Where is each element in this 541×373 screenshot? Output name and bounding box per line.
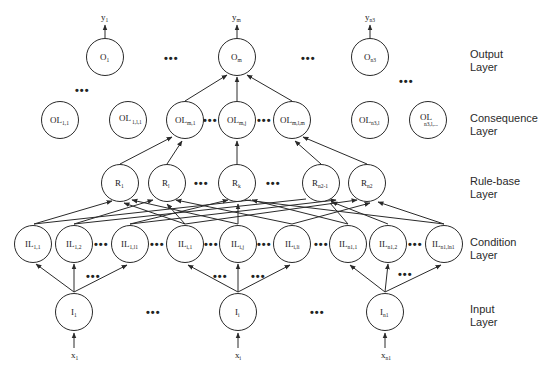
input-node-in1: In1: [367, 294, 404, 331]
layer-label-condition: Condition Layer: [470, 236, 516, 262]
layer-label-line: Input: [470, 303, 498, 316]
input-signals: x1 xi xn1: [71, 350, 391, 361]
condition-layer-nodes: IL1,1 IL1,2 IL1,l1 ILi,1 ILi,j ILi,li IL…: [15, 226, 463, 263]
ellipsis-icon: •••: [399, 75, 414, 87]
input-signal-xi: xi: [235, 350, 242, 361]
output-layer-nodes: O1 Om On3: [87, 39, 389, 76]
layer-label-line: Output: [470, 48, 503, 61]
output-signal-y1: y1: [101, 12, 109, 23]
ellipsis-icon: •••: [310, 306, 325, 318]
ellipsis-icon: •••: [94, 238, 109, 250]
layer-label-line: Layer: [470, 188, 520, 201]
layer-label-line: Rule-base: [470, 175, 520, 188]
output-signal-ym: ym: [232, 12, 242, 23]
ellipsis-icon: •••: [257, 238, 272, 250]
ellipsis-icon: •••: [251, 270, 266, 282]
layer-label-consequence: Consequence Layer: [470, 112, 538, 138]
ellipsis-icon: •••: [408, 238, 423, 250]
consequence-node-ol-n3-l: OLn3,l: [352, 102, 389, 139]
output-signal-yn3: yn3: [365, 12, 375, 23]
ellipsis-icon: •••: [194, 177, 209, 189]
consequence-node-ol-1-l-1: OL1,l,1: [110, 102, 147, 139]
consequence-node-ol-1-1: OL1,1: [42, 102, 79, 139]
layer-label-output: Output Layer: [470, 48, 503, 74]
ellipsis-icon: •••: [204, 238, 219, 250]
rule-node-rl: Rl: [149, 165, 186, 202]
rule-layer-nodes: R1 Rl Rk Rn2-1 Rn2: [102, 165, 386, 202]
layer-label-line: Layer: [470, 125, 538, 138]
rule-node-rk: Rk: [219, 165, 256, 202]
consequence-node-ol-m-j: OLm,j: [219, 102, 256, 139]
input-signal-xn1: xn1: [381, 350, 391, 361]
rule-node-rn2-minus-1: Rn2-1: [303, 165, 340, 202]
rule-node-r1: R1: [102, 165, 139, 202]
input-node-ii: Ii: [220, 294, 257, 331]
consequence-node-ol-m-1: OLm,1: [167, 102, 204, 139]
ellipsis-icon: •••: [213, 270, 228, 282]
ellipsis-icon: •••: [86, 270, 101, 282]
condition-node-il-n1-2: ILn1,2: [370, 226, 407, 263]
rule-node-rn2: Rn2: [349, 165, 386, 202]
ellipsis-icon: •••: [75, 84, 90, 96]
layer-label-line: Layer: [470, 316, 498, 329]
consequence-node-ol-n3-l-more: OLn3,l,...: [410, 102, 447, 139]
ellipsis-icon: •••: [257, 114, 272, 126]
condition-node-il-n1-ln1: ILn1,ln1: [426, 226, 463, 263]
fuzzy-neural-network-diagram: y1 ym yn3 O1 Om On3 OL1,1 OL1,l,1 OLm,1 …: [0, 0, 541, 373]
layer-label-input: Input Layer: [470, 303, 498, 329]
output-signals: y1 ym yn3: [101, 12, 375, 23]
condition-node-il-1-2: IL1,2: [56, 226, 93, 263]
ellipsis-icon: •••: [150, 238, 165, 250]
layer-label-line: Layer: [470, 249, 516, 262]
output-node-om: Om: [219, 39, 256, 76]
consequence-node-ol-m-l-m: OLm,l,m: [274, 102, 311, 139]
ellipsis-icon: •••: [146, 306, 161, 318]
ellipsis-icon: •••: [164, 52, 179, 64]
ellipsis-icon: •••: [398, 268, 413, 280]
condition-node-il-n1-1: ILn1,1: [330, 226, 367, 263]
layer-label-line: Consequence: [470, 112, 538, 125]
condition-node-il-1-1: IL1,1: [15, 226, 52, 263]
consequence-layer-nodes: OL1,1 OL1,l,1 OLm,1 OLm,j OLm,l,m OLn3,l…: [42, 102, 447, 139]
output-node-o1: O1: [87, 39, 124, 76]
input-layer-nodes: I1 Ii In1: [56, 294, 404, 331]
condition-node-il-1-l1: IL1,l1: [112, 226, 149, 263]
input-node-i1: I1: [56, 294, 93, 331]
condition-node-il-i-j: ILi,j: [220, 226, 257, 263]
ellipsis-icon: •••: [301, 52, 316, 64]
input-signal-x1: x1: [71, 350, 79, 361]
ellipsis-icon: •••: [314, 238, 329, 250]
layer-label-line: Layer: [470, 61, 503, 74]
condition-node-il-i-li: ILi,li: [274, 226, 311, 263]
ellipsis-icon: •••: [266, 177, 281, 189]
output-node-on3: On3: [352, 39, 389, 76]
layer-label-rule-base: Rule-base Layer: [470, 175, 520, 201]
ellipsis-icon: •••: [203, 114, 218, 126]
condition-node-il-i-1: ILi,1: [167, 226, 204, 263]
layer-label-line: Condition: [470, 236, 516, 249]
